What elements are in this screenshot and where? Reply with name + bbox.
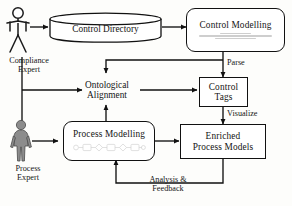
control-directory-label: Control Directory [49, 24, 162, 34]
node-process-modelling[interactable]: Process Modelling [63, 121, 155, 161]
edge-control-modelling-to-ontological [106, 60, 223, 73]
compliance-expert-figure [4, 6, 32, 54]
node-ontological-alignment[interactable]: Ontological Alignment [74, 80, 140, 101]
enriched-process-models-line1: Enriched [206, 131, 241, 141]
analysis-feedback-line1: Analysis & [140, 175, 196, 184]
diagram-canvas: Compliance Expert Process Expert Control… [0, 0, 292, 206]
ontological-alignment-line1: Ontological [74, 80, 140, 90]
process-expert-label-line2: Expert [0, 173, 56, 182]
compliance-expert-label-line1: Compliance [0, 56, 58, 65]
process-modelling-detail [72, 142, 146, 153]
process-expert-label-line1: Process [0, 164, 56, 173]
process-expert-figure [8, 119, 34, 163]
enriched-process-models-line2: Process Models [193, 142, 254, 152]
node-enriched-process-models[interactable]: Enriched Process Models [180, 124, 266, 159]
ontological-alignment-line2: Alignment [74, 90, 140, 100]
control-modelling-label: Control Modelling [199, 20, 271, 30]
process-modelling-label: Process Modelling [73, 129, 145, 139]
control-tags-line1: Control [209, 82, 238, 92]
edge-label-analysis-feedback: Analysis & Feedback [140, 175, 196, 193]
node-control-modelling[interactable]: Control Modelling [186, 8, 285, 52]
control-modelling-detail [197, 32, 275, 41]
process-expert-label: Process Expert [0, 164, 56, 183]
edge-label-visualize: Visualize [227, 109, 257, 118]
control-tags-line2: Tags [214, 92, 232, 102]
compliance-expert-label: Compliance Expert [0, 56, 58, 75]
compliance-expert-label-line2: Expert [0, 65, 58, 74]
node-control-tags[interactable]: Control Tags [199, 77, 248, 107]
edge-label-parse: Parse [227, 58, 245, 67]
analysis-feedback-line2: Feedback [140, 184, 196, 193]
node-control-directory[interactable]: Control Directory [49, 12, 162, 43]
